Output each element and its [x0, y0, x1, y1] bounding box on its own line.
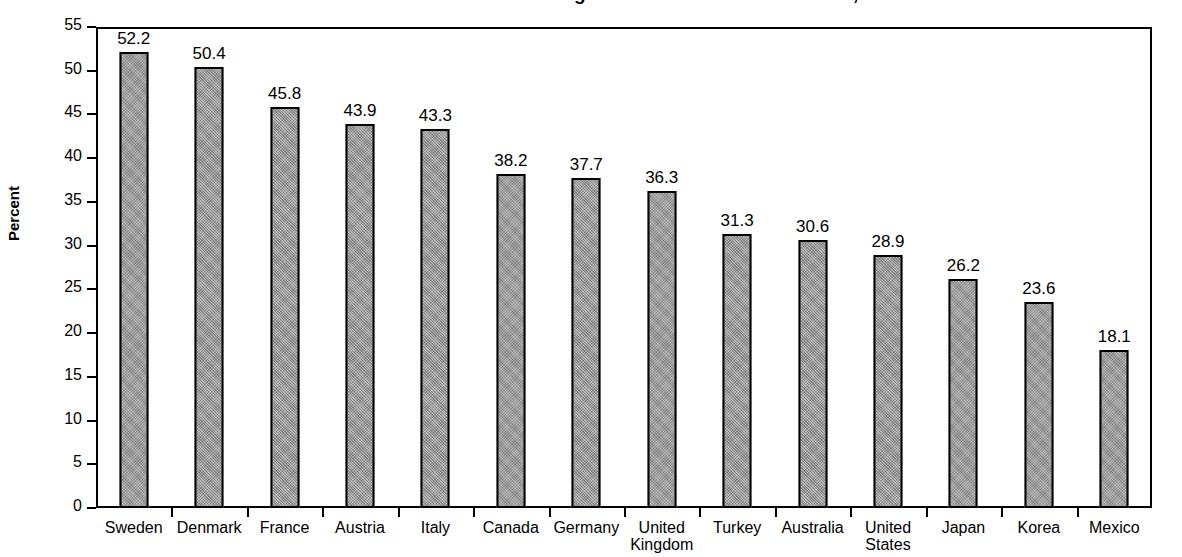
y-tick-label: 55	[64, 16, 82, 34]
x-tick-mark	[926, 508, 928, 517]
bar-slot: 52.2	[96, 27, 171, 508]
x-tick-mark	[322, 508, 324, 517]
y-tick-mark	[87, 201, 96, 203]
bar[interactable]	[949, 279, 978, 508]
y-tick-mark	[87, 70, 96, 72]
bar-value-label: 23.6	[1022, 279, 1055, 299]
x-axis-labels: SwedenDenmarkFranceAustriaItalyCanadaGer…	[96, 519, 1152, 557]
x-tick-mark	[775, 508, 777, 517]
x-tick-mark	[699, 508, 701, 517]
bar[interactable]	[270, 107, 299, 508]
x-tick-mark	[850, 508, 852, 517]
bar-value-label: 30.6	[796, 217, 829, 237]
y-tick-label: 50	[64, 60, 82, 78]
x-tick-mark	[473, 508, 475, 517]
bar-value-label: 37.7	[570, 155, 603, 175]
y-tick-label: 40	[64, 147, 82, 165]
y-tick-mark	[87, 507, 96, 509]
y-tick-mark	[87, 288, 96, 290]
y-tick-mark	[87, 420, 96, 422]
bar-value-label: 45.8	[268, 84, 301, 104]
y-tick-label: 0	[73, 497, 82, 515]
bar-slot: 38.2	[473, 27, 548, 508]
bar[interactable]	[345, 124, 374, 508]
bar[interactable]	[798, 240, 827, 508]
bar-value-label: 31.3	[721, 211, 754, 231]
x-axis-ticks	[96, 508, 1152, 518]
bar[interactable]	[1100, 350, 1129, 508]
y-tick-label: 25	[64, 278, 82, 296]
bar[interactable]	[421, 129, 450, 508]
bar-value-label: 50.4	[193, 44, 226, 64]
y-tick-label: 5	[73, 453, 82, 471]
y-tick-label: 35	[64, 191, 82, 209]
bar-value-label: 26.2	[947, 256, 980, 276]
bar-value-label: 43.3	[419, 106, 452, 126]
bar-value-label: 36.3	[645, 168, 678, 188]
bar-slot: 43.3	[398, 27, 473, 508]
x-tick-mark	[247, 508, 249, 517]
bar-slot: 18.1	[1077, 27, 1152, 508]
bar-slot: 37.7	[549, 27, 624, 508]
bar-value-label: 28.9	[871, 232, 904, 252]
y-tick-label: 10	[64, 410, 82, 428]
y-tick-label: 20	[64, 322, 82, 340]
y-tick-mark	[87, 332, 96, 334]
bar[interactable]	[195, 67, 224, 508]
y-tick-mark	[87, 376, 96, 378]
bar-slot: 31.3	[699, 27, 774, 508]
x-axis-category-label: Mexico	[1064, 519, 1164, 536]
x-tick-mark	[171, 508, 173, 517]
bar[interactable]	[647, 191, 676, 508]
x-tick-mark	[624, 508, 626, 517]
y-tick-label: 45	[64, 103, 82, 121]
bar[interactable]	[119, 52, 148, 509]
y-tick-mark	[87, 113, 96, 115]
y-axis-title: Percent	[5, 179, 22, 249]
y-tick-label: 30	[64, 235, 82, 253]
bar-value-label: 18.1	[1098, 327, 1131, 347]
bar[interactable]	[572, 178, 601, 508]
bar-value-label: 38.2	[494, 151, 527, 171]
bar[interactable]	[496, 174, 525, 508]
bar[interactable]	[723, 234, 752, 508]
bar-slot: 50.4	[171, 27, 246, 508]
y-tick-mark	[87, 463, 96, 465]
bar-slot: 23.6	[1001, 27, 1076, 508]
bar-value-label: 43.9	[343, 101, 376, 121]
x-tick-mark	[549, 508, 551, 517]
bars-layer: 52.250.445.843.943.338.237.736.331.330.6…	[96, 27, 1152, 508]
bar[interactable]	[873, 255, 902, 508]
chart-title: Total Tax Revenue as a Percentage of Gro…	[0, 0, 1182, 5]
x-tick-mark	[1077, 508, 1079, 517]
bar-slot: 26.2	[926, 27, 1001, 508]
bar-slot: 43.9	[322, 27, 397, 508]
bar-slot: 45.8	[247, 27, 322, 508]
bar-slot: 28.9	[850, 27, 925, 508]
bar-value-label: 52.2	[117, 29, 150, 49]
x-tick-mark	[1001, 508, 1003, 517]
y-tick-mark	[87, 245, 96, 247]
bar[interactable]	[1024, 302, 1053, 508]
bar-slot: 36.3	[624, 27, 699, 508]
y-tick-mark	[87, 157, 96, 159]
y-tick-label: 15	[64, 366, 82, 384]
y-tick-mark	[87, 26, 96, 28]
bar-slot: 30.6	[775, 27, 850, 508]
x-tick-mark	[398, 508, 400, 517]
